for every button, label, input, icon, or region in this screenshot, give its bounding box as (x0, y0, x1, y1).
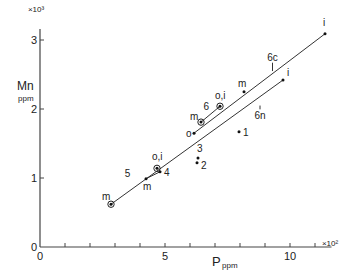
y-axis-label-sub: ppm (18, 94, 34, 103)
data-point (219, 105, 222, 108)
point-label: i (287, 67, 289, 78)
point-label: m (102, 191, 110, 202)
data-point (193, 132, 196, 135)
data-point (159, 170, 162, 173)
x-tick-label: 10 (284, 250, 296, 262)
data-point (200, 121, 203, 124)
data-point (238, 130, 241, 133)
data-point (243, 90, 246, 93)
x-axis-label: P (212, 254, 221, 269)
x-axis-label-sub: ppm (222, 261, 238, 270)
annotation-label: 5 (125, 168, 131, 179)
y-tick-label: 1 (31, 172, 37, 184)
point-label: m (143, 181, 151, 192)
point-label: 2 (201, 160, 207, 171)
axes: 05100123×10³×10²MnppmPppm (17, 5, 338, 270)
data-point (156, 167, 159, 170)
chart: 05100123×10³×10²MnppmPppm mmo,i432omo,i1… (0, 0, 355, 275)
data-point (282, 79, 285, 82)
data-point (110, 203, 113, 206)
data-point (197, 156, 200, 159)
fit-line-5-segment (146, 172, 160, 179)
point-label: 1 (243, 127, 249, 138)
y-tick-label: 2 (31, 103, 37, 115)
point-label: i (323, 17, 325, 28)
point-label: o (186, 128, 192, 139)
x-tick-label: 0 (37, 250, 43, 262)
data-point (324, 32, 327, 35)
point-label: o,i (215, 90, 226, 101)
point-label: o,i (152, 151, 163, 162)
point-label: 4 (164, 167, 170, 178)
point-label: 3 (197, 143, 203, 154)
y-tick-label: 0 (31, 241, 37, 253)
y-axis-label: Mn (17, 79, 34, 93)
y-multiplier-label: ×10³ (28, 5, 45, 14)
x-multiplier-label: ×10² (322, 239, 339, 248)
x-tick-label: 5 (162, 250, 168, 262)
annotation-label: 6 (203, 101, 209, 112)
annotation-label: 6n (254, 110, 265, 121)
lines-group (111, 34, 325, 204)
y-tick-label: 3 (31, 34, 37, 46)
labels-group: mmo,i432omo,i1mii566c6n (102, 17, 325, 202)
point-label: m (190, 111, 198, 122)
points-group (108, 32, 327, 207)
annotation-label: 6c (267, 52, 278, 63)
point-label: m (238, 78, 246, 89)
data-point (196, 161, 199, 164)
